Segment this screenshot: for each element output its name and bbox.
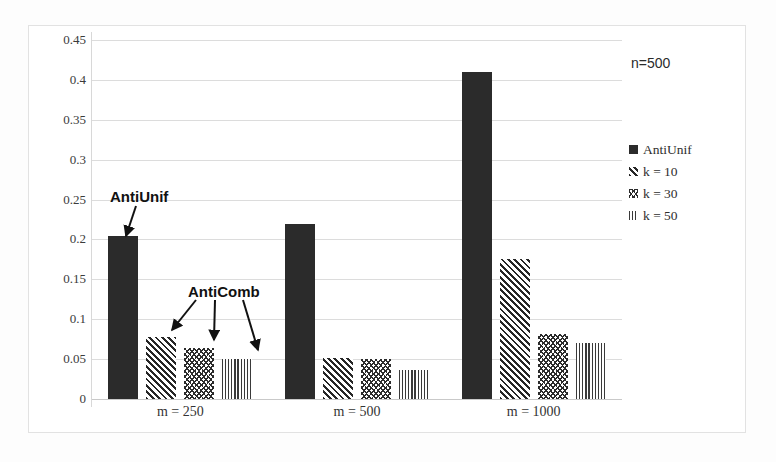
bar [323, 358, 353, 399]
y-axis-tick-label: 0.25 [26, 192, 86, 208]
legend-swatch-icon [629, 145, 638, 154]
plot-area [92, 40, 622, 399]
y-axis-tick-labels: 0.450.40.350.30.250.20.150.10.050 [22, 40, 86, 399]
x-axis-tick-label: m = 1000 [507, 404, 561, 420]
y-axis-tick-label: 0.45 [26, 32, 86, 48]
sample-size-note: n=500 [631, 55, 670, 71]
chart-screenshot: 0.450.40.350.30.250.20.150.10.050 m = 25… [0, 0, 776, 462]
bar [462, 72, 492, 399]
legend-item-label: k = 10 [643, 164, 678, 180]
bar [399, 370, 429, 399]
bar [285, 224, 315, 400]
annotation-antiunif: AntiUnif [110, 188, 168, 205]
y-axis-tick-label: 0.15 [26, 271, 86, 287]
x-axis-tick-label: m = 500 [334, 404, 381, 420]
x-axis-tick-label: m = 250 [157, 404, 204, 420]
x-axis-tick-labels: m = 250m = 500m = 1000 [92, 404, 622, 432]
y-axis-tick-label: 0.4 [26, 72, 86, 88]
legend: AntiUnifk = 10k = 30k = 50 [629, 140, 739, 228]
y-axis-tick-label: 0 [26, 391, 86, 407]
bar-group [445, 40, 622, 399]
legend-item-label: AntiUnif [643, 142, 692, 158]
y-axis-tick-label: 0.05 [26, 351, 86, 367]
legend-item[interactable]: k = 50 [629, 206, 739, 225]
bar [538, 334, 568, 399]
y-axis-tick-label: 0.1 [26, 311, 86, 327]
annotation-anticomb: AntiComb [188, 283, 260, 300]
bar [184, 348, 214, 399]
bar [361, 359, 391, 399]
legend-item[interactable]: AntiUnif [629, 140, 739, 159]
bar-group [269, 40, 446, 399]
y-axis-tick-label: 0.35 [26, 112, 86, 128]
legend-item-label: k = 30 [643, 186, 678, 202]
legend-swatch-icon [629, 167, 638, 176]
legend-item[interactable]: k = 10 [629, 162, 739, 181]
bar [108, 236, 138, 399]
gridline [92, 399, 622, 400]
y-axis-tick-label: 0.3 [26, 152, 86, 168]
bar [576, 343, 606, 399]
legend-swatch-icon [629, 189, 638, 198]
legend-item[interactable]: k = 30 [629, 184, 739, 203]
y-axis-tick-label: 0.2 [26, 231, 86, 247]
legend-item-label: k = 50 [643, 208, 678, 224]
bar [222, 359, 252, 399]
legend-swatch-icon [629, 211, 638, 220]
bar [146, 337, 176, 399]
bar [500, 259, 530, 399]
bar-group [92, 40, 269, 399]
